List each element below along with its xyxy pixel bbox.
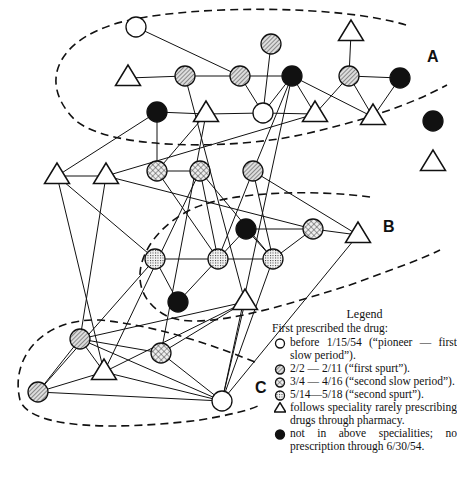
legend-item: 2/2 — 2/11 (“first spurt”).: [274, 362, 457, 375]
open-circle-node-icon: [253, 103, 273, 123]
crosshatch-circle-node-icon: [276, 378, 285, 387]
legend-heading: First prescribed the drug:: [272, 322, 457, 335]
dotted-circle-node-icon: [208, 249, 228, 269]
black-circle-node-icon: [168, 292, 188, 312]
legend-item-text: follows speciality rarely prescribing dr…: [290, 401, 457, 427]
edge-line: [106, 114, 315, 176]
edge-line: [80, 176, 106, 339]
cluster-label-b: B: [383, 218, 395, 236]
black-circle-node-icon: [390, 68, 410, 88]
triangle-node-icon: [92, 359, 117, 380]
crosshatch-circle-node-icon: [303, 219, 323, 239]
edge-line: [161, 114, 206, 353]
edge-line: [104, 171, 200, 372]
dotted-circle-node-icon: [145, 249, 165, 269]
dotted-circle-node-icon: [263, 249, 283, 269]
hatched-circle-node-icon: [230, 66, 250, 86]
edge-line: [253, 76, 292, 171]
legend-item-text: 3/4 — 4/16 (“second slow period”).: [290, 375, 455, 388]
legend-item-text: 5/14—5/18 (“second spurt”).: [290, 388, 424, 401]
crosshatch-legend-icon: [274, 376, 286, 388]
hatched-circle-node-icon: [243, 161, 263, 181]
hatched-circle-node-icon: [339, 66, 359, 86]
dotted-circle-node-icon: [276, 391, 285, 400]
edge-line: [253, 171, 273, 259]
triangle-node-icon: [45, 163, 70, 184]
crosshatch-circle-node-icon: [190, 161, 210, 181]
triangle-node-icon: [274, 403, 285, 412]
legend: Legend First prescribed the drug: before…: [272, 308, 457, 453]
black-circle-node-icon: [282, 66, 302, 86]
hatched-circle-node-icon: [175, 66, 195, 86]
legend-item-text: before 1/15/54 (“pioneer — first slow pe…: [290, 336, 457, 362]
triangle-node-icon: [233, 289, 258, 310]
edge-line: [106, 176, 313, 229]
legend-item: 3/4 — 4/16 (“second slow period”).: [274, 375, 457, 388]
triangle-node-icon: [116, 65, 141, 86]
black-circle-node-icon: [236, 219, 256, 239]
black-legend-icon: [274, 428, 286, 440]
crosshatch-circle-node-icon: [151, 343, 171, 363]
legend-item: follows speciality rarely prescribing dr…: [274, 401, 457, 427]
black-circle-node-icon: [423, 111, 443, 131]
legend-title: Legend: [272, 308, 457, 321]
hatched-circle-node-icon: [276, 365, 285, 374]
triangle-node-icon: [339, 20, 364, 41]
black-circle-node-icon: [276, 430, 285, 439]
dotted-legend-icon: [274, 389, 286, 401]
edge-line: [104, 302, 245, 372]
legend-item: 5/14—5/18 (“second spurt”).: [274, 388, 457, 401]
open-legend-icon: [274, 337, 286, 349]
edge-line: [218, 171, 253, 259]
hatched-circle-node-icon: [261, 34, 281, 54]
triangle-node-icon: [194, 101, 219, 122]
hatched-legend-icon: [274, 363, 286, 375]
edge-line: [80, 339, 161, 353]
edge-line: [38, 392, 222, 401]
legend-item-text: 2/2 — 2/11 (“first spurt”).: [290, 362, 410, 375]
open-circle-node-icon: [276, 339, 285, 348]
crosshatch-circle-node-icon: [147, 161, 167, 181]
legend-items: before 1/15/54 (“pioneer — first slow pe…: [272, 336, 457, 453]
triangle-node-icon: [361, 104, 386, 125]
open-circle-node-icon: [212, 391, 232, 411]
cluster-label-c: C: [255, 379, 267, 397]
triangle-legend-icon: [274, 402, 286, 414]
open-circle-node-icon: [126, 17, 146, 37]
edge-line: [57, 176, 155, 259]
triangle-node-icon: [421, 150, 446, 171]
legend-item: before 1/15/54 (“pioneer — first slow pe…: [274, 336, 457, 362]
hatched-circle-node-icon: [70, 329, 90, 349]
legend-item: not in above specialities; no prescripti…: [274, 427, 457, 453]
hatched-circle-node-icon: [28, 382, 48, 402]
legend-item-text: not in above specialities; no prescripti…: [290, 427, 457, 453]
cluster-label-a: A: [427, 48, 439, 66]
black-circle-node-icon: [147, 102, 167, 122]
triangle-node-icon: [346, 222, 371, 243]
